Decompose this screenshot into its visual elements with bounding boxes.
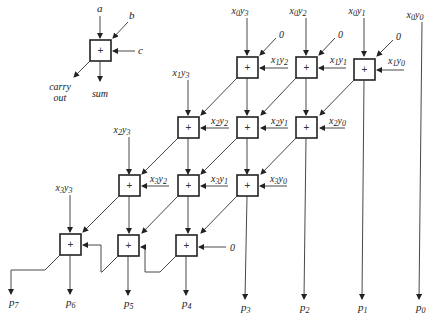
svg-text:x1y2: x1y2 bbox=[270, 54, 288, 67]
svg-text:x1y0: x1y0 bbox=[387, 55, 405, 68]
legend-input-a: a bbox=[97, 2, 103, 14]
svg-text:p7: p7 bbox=[8, 296, 20, 310]
svg-text:p1: p1 bbox=[357, 301, 368, 315]
wire bbox=[261, 138, 296, 174]
ripple-carry-wire bbox=[83, 245, 118, 272]
legend-carry-label: carry bbox=[49, 81, 71, 92]
output-p7: p7 bbox=[8, 296, 20, 310]
legend-sum-label: sum bbox=[92, 88, 108, 99]
svg-text:x3y2: x3y2 bbox=[149, 173, 167, 186]
wire bbox=[201, 196, 237, 233]
wire bbox=[83, 196, 119, 232]
wire bbox=[261, 78, 296, 115]
svg-text:p2: p2 bbox=[299, 301, 310, 315]
wire bbox=[377, 40, 393, 56]
plus-icon: + bbox=[186, 180, 192, 191]
svg-text:p3: p3 bbox=[240, 301, 251, 315]
wire bbox=[320, 80, 354, 115]
label-x3y1: x3y1 bbox=[210, 173, 228, 186]
output-p6: p6 bbox=[65, 296, 76, 310]
plus-icon: + bbox=[245, 62, 251, 73]
output-p4: p4 bbox=[181, 297, 192, 311]
plus-icon: + bbox=[304, 62, 310, 73]
legend-arrow-b bbox=[113, 22, 128, 38]
label-x0y1: x0y1 bbox=[348, 5, 366, 18]
plus-icon: + bbox=[127, 180, 133, 191]
output-p5: p5 bbox=[123, 297, 134, 311]
plus-icon: + bbox=[68, 239, 74, 250]
label-x0y0: x0y0 bbox=[406, 9, 424, 22]
label-x1y1: x1y1 bbox=[329, 54, 347, 67]
output-p0: p0 bbox=[415, 301, 426, 315]
svg-text:x0y3: x0y3 bbox=[231, 5, 249, 18]
legend-plus-icon: + bbox=[98, 45, 104, 56]
label-x2y2: x2y2 bbox=[210, 115, 228, 128]
zero-input: 0 bbox=[230, 242, 235, 253]
label-x1y3: x1y3 bbox=[172, 67, 190, 80]
array-multiplier-diagram: a b c + carry out sum x0y3 0 x1y2 + x0y2… bbox=[0, 0, 442, 318]
wire-p1 bbox=[362, 80, 364, 299]
wire bbox=[142, 196, 178, 233]
legend-arrow-carry bbox=[74, 61, 90, 77]
svg-text:x3y1: x3y1 bbox=[210, 173, 228, 186]
svg-text:x1y3: x1y3 bbox=[172, 67, 190, 80]
label-x2y1: x2y1 bbox=[270, 115, 288, 128]
svg-text:x3y0: x3y0 bbox=[269, 173, 287, 186]
legend-out-label: out bbox=[54, 92, 67, 103]
legend-full-adder: a b c + carry out sum bbox=[49, 2, 143, 103]
svg-text:x2y3: x2y3 bbox=[113, 124, 131, 137]
label-x2y3: x2y3 bbox=[113, 124, 131, 137]
label-x3y3: x3y3 bbox=[55, 182, 73, 195]
svg-text:x2y0: x2y0 bbox=[328, 115, 346, 128]
ripple-carry-wire bbox=[141, 247, 176, 272]
svg-text:x2y2: x2y2 bbox=[210, 115, 228, 128]
svg-text:p5: p5 bbox=[123, 297, 134, 311]
label-x0y2: x0y2 bbox=[289, 5, 307, 18]
wire-p7 bbox=[11, 255, 60, 294]
zero-input: 0 bbox=[338, 29, 343, 40]
output-p1: p1 bbox=[357, 301, 368, 315]
label-x1y2: x1y2 bbox=[270, 54, 288, 67]
svg-text:x0y1: x0y1 bbox=[348, 5, 366, 18]
zero-input: 0 bbox=[396, 31, 401, 42]
plus-icon: + bbox=[126, 240, 132, 251]
svg-text:x1y1: x1y1 bbox=[329, 54, 347, 67]
plus-icon: + bbox=[362, 64, 368, 75]
wire-p0 bbox=[419, 22, 422, 299]
wire bbox=[142, 138, 178, 174]
svg-text:p6: p6 bbox=[65, 296, 76, 310]
plus-icon: + bbox=[304, 122, 310, 133]
wire bbox=[201, 138, 237, 174]
plus-icon: + bbox=[245, 180, 251, 191]
svg-text:x2y1: x2y1 bbox=[270, 115, 288, 128]
plus-icon: + bbox=[245, 122, 251, 133]
label-x2y0: x2y0 bbox=[328, 115, 346, 128]
svg-text:x0y2: x0y2 bbox=[289, 5, 307, 18]
wire bbox=[260, 38, 276, 55]
wire-p2 bbox=[304, 138, 306, 299]
legend-input-b: b bbox=[129, 9, 135, 21]
wire-p3 bbox=[245, 196, 247, 299]
output-p3: p3 bbox=[240, 301, 251, 315]
plus-icon: + bbox=[184, 240, 190, 251]
output-p2: p2 bbox=[299, 301, 310, 315]
plus-icon: + bbox=[186, 122, 192, 133]
svg-text:p4: p4 bbox=[181, 297, 192, 311]
label-x3y2: x3y2 bbox=[149, 173, 167, 186]
label-x3y0: x3y0 bbox=[269, 173, 287, 186]
svg-text:p0: p0 bbox=[415, 301, 426, 315]
wire bbox=[201, 78, 237, 115]
legend-input-c: c bbox=[138, 44, 143, 56]
svg-text:x0y0: x0y0 bbox=[406, 9, 424, 22]
label-x1y0: x1y0 bbox=[387, 55, 405, 68]
svg-text:x3y3: x3y3 bbox=[55, 182, 73, 195]
wire bbox=[319, 38, 335, 55]
label-x0y3: x0y3 bbox=[231, 5, 249, 18]
zero-input: 0 bbox=[279, 29, 284, 40]
